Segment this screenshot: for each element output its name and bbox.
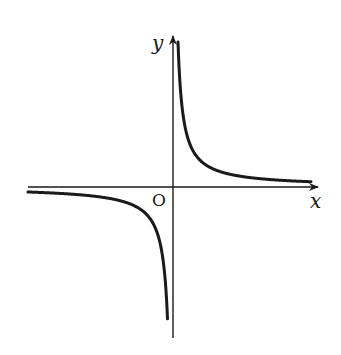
y-axis-label: y	[151, 31, 164, 55]
hyperbola-figure: y x O	[0, 0, 341, 355]
x-axis-label: x	[310, 189, 321, 213]
hyperbola-branch-quadrant-1	[178, 42, 311, 182]
hyperbola-branch-quadrant-3	[28, 192, 168, 319]
origin-label: O	[152, 190, 166, 210]
